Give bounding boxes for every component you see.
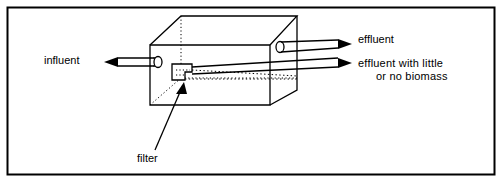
- figure-border: [8, 8, 495, 175]
- filter-leader-line: [155, 92, 180, 150]
- label-effluent-little-biomass: effluent with littleor no biomass: [358, 57, 448, 83]
- vessel-front-face: [150, 45, 270, 105]
- vessel-outline: [150, 16, 297, 105]
- influent-pipe-opening: [154, 57, 162, 68]
- vessel-top-face: [150, 16, 297, 45]
- diagram-canvas: [0, 0, 502, 182]
- label-effluent-little-line1: effluent with little: [358, 57, 443, 69]
- effluent-pipe-opening: [276, 42, 284, 53]
- label-effluent: effluent: [358, 33, 394, 46]
- label-filter: filter: [137, 152, 158, 165]
- influent-arrow-icon: [104, 57, 118, 67]
- filter-arrow-icon: [176, 82, 187, 94]
- effluent-arrow-icon: [338, 39, 352, 49]
- effluent-pipe-upper: [281, 40, 338, 52]
- influent-pipe: [118, 58, 157, 66]
- label-influent: influent: [44, 54, 79, 67]
- vessel-hidden-edges: [150, 16, 297, 105]
- filter-leader: [155, 82, 187, 150]
- effluent-pipe-lower: [192, 58, 338, 74]
- effluent-little-arrow-icon: [338, 58, 352, 68]
- figure-container: influent effluent effluent with littleor…: [0, 0, 502, 182]
- label-effluent-little-line2: or no biomass: [358, 70, 448, 83]
